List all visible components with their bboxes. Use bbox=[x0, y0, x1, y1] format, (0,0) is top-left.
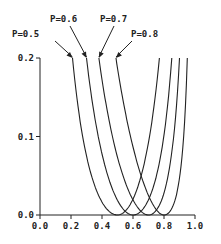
y-tick-label: 0.0 bbox=[18, 210, 34, 220]
x-tick-label: 1.0 bbox=[187, 221, 203, 231]
annotation-label: P=0.6 bbox=[50, 14, 77, 24]
x-tick-label: 0.2 bbox=[63, 221, 79, 231]
annotation-arrow bbox=[99, 26, 114, 57]
curves bbox=[73, 58, 188, 215]
arrowhead-icon bbox=[116, 52, 122, 58]
annotation-arrow bbox=[70, 26, 87, 57]
curve-P-07 bbox=[99, 58, 180, 215]
y-tick-label: 0.2 bbox=[18, 53, 34, 63]
x-tick-label: 0.4 bbox=[94, 221, 111, 231]
annotation-label: P=0.7 bbox=[100, 14, 127, 24]
x-tick-label: 0.8 bbox=[156, 221, 172, 231]
axes: 0.00.20.40.60.81.00.00.10.2 bbox=[18, 53, 203, 231]
annotation-label: P=0.5 bbox=[12, 29, 39, 39]
chart: 0.00.20.40.60.81.00.00.10.2 P=0.5P=0.6P=… bbox=[0, 0, 221, 244]
x-tick-label: 0.0 bbox=[32, 221, 48, 231]
y-tick-label: 0.1 bbox=[18, 132, 34, 142]
annotation-label: P=0.8 bbox=[131, 29, 158, 39]
annotations: P=0.5P=0.6P=0.7P=0.8 bbox=[12, 14, 158, 58]
x-tick-label: 0.6 bbox=[125, 221, 141, 231]
